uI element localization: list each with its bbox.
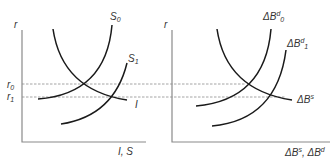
right-y-axis-label: r <box>164 19 168 30</box>
bond-demand-curve-1 <box>212 50 286 126</box>
bond-demand-curve-0 <box>196 29 271 106</box>
i-label: I <box>135 99 138 110</box>
saving-curve-s0 <box>38 25 112 99</box>
left-axes <box>22 30 146 142</box>
left-x-axis-label: I, S <box>118 146 133 157</box>
s0-label: S0 <box>110 11 121 23</box>
right-panel: r ΔBs, ΔBd ΔBd0 ΔBd1 ΔBs <box>164 10 330 158</box>
bond-demand-1-label: ΔBd1 <box>286 37 308 50</box>
bond-supply-label: ΔBs <box>296 93 314 105</box>
right-x-axis-label: ΔBs, ΔBd <box>284 146 326 158</box>
bond-supply-curve <box>217 29 292 100</box>
s1-label: S1 <box>128 53 139 65</box>
loanable-funds-diagram: r I, S r0 r1 S0 S1 I r ΔBs, ΔBd ΔBd0 ΔBd… <box>0 0 335 163</box>
r1-label: r1 <box>7 91 14 103</box>
bond-demand-0-label: ΔBd0 <box>262 10 284 23</box>
left-y-axis-label: r <box>14 19 18 30</box>
r0-label: r0 <box>7 79 14 91</box>
